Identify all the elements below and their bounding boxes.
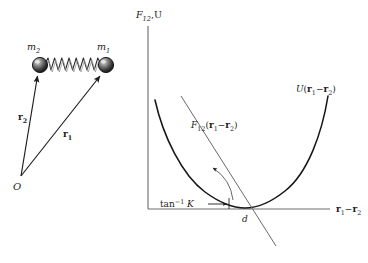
x-axis-label: r1−r2 bbox=[336, 204, 361, 217]
vector-r1-arrow bbox=[21, 76, 100, 176]
right-panel-group: F12,U r1−r2 U(r1−r2) F12(r1−r2) tan−1 K … bbox=[135, 9, 361, 246]
mass-m1-label: m1 bbox=[97, 41, 110, 55]
mass-m2-sphere bbox=[32, 57, 47, 72]
vector-r2-label: r2 bbox=[18, 112, 27, 125]
vector-r2-arrow bbox=[21, 76, 38, 176]
physics-figure: m2 m1 r2 r1 O bbox=[0, 0, 368, 263]
y-axis-label: F12,U bbox=[135, 9, 162, 23]
figure-canvas: m2 m1 r2 r1 O bbox=[0, 0, 368, 263]
equilibrium-separation-label: d bbox=[242, 214, 248, 224]
vector-r1-label: r1 bbox=[63, 129, 72, 142]
mass-m1-sphere bbox=[98, 57, 113, 72]
force-line bbox=[181, 96, 276, 246]
left-panel-group: m2 m1 r2 r1 O bbox=[13, 41, 114, 192]
potential-curve-label: U(r1−r2) bbox=[296, 84, 336, 97]
spring-coil bbox=[45, 58, 101, 72]
force-line-label: F12(r1−r2) bbox=[190, 120, 238, 133]
slope-label: tan−1 K bbox=[160, 198, 195, 209]
origin-label: O bbox=[13, 181, 21, 192]
mass-m2-label: m2 bbox=[27, 41, 40, 55]
